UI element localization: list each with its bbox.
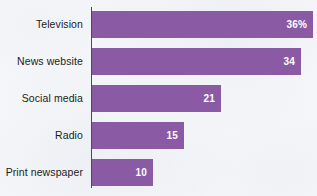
category-label-news-website: News website [0,48,83,75]
bar-value-social-media: 21 [203,85,215,112]
category-label-radio: Radio [0,122,83,149]
bar-row: Print newspaper 10 [0,159,317,186]
bar-social-media [92,85,221,112]
bar-row: Social media 21 [0,85,317,112]
bar-value-print-newspaper: 10 [135,159,147,186]
bar-row: Radio 15 [0,122,317,149]
category-label-social-media: Social media [0,85,83,112]
bar-chart: Television 36% News website 34 Social me… [0,0,317,196]
bar-value-television: 36% [286,11,307,38]
bar-value-news-website: 34 [283,48,295,75]
bar-value-radio: 15 [166,122,178,149]
bar-row: Television 36% [0,11,317,38]
category-label-television: Television [0,11,83,38]
plot-area: Television 36% News website 34 Social me… [0,0,317,196]
category-label-print-newspaper: Print newspaper [0,159,83,186]
bar-television [92,11,313,38]
bar-row: News website 34 [0,48,317,75]
bar-news-website [92,48,301,75]
